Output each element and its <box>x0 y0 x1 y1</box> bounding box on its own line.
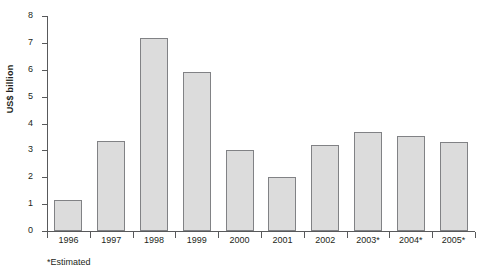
x-axis-label: 1996 <box>47 234 90 246</box>
footnote: *Estimated <box>47 256 91 268</box>
y-tick-label: 2 <box>28 171 33 182</box>
bar-slot <box>347 16 390 231</box>
y-tick-label: 1 <box>28 198 33 209</box>
plot-area: 876543210 <box>47 16 475 232</box>
y-tick-label: 5 <box>28 91 33 102</box>
bar-slot <box>218 16 261 231</box>
bar <box>226 150 254 231</box>
x-axis-label: 1997 <box>90 234 133 246</box>
bar-slot <box>304 16 347 231</box>
bar-slot <box>432 16 475 231</box>
bar <box>140 38 168 232</box>
bar <box>268 177 296 231</box>
y-axis-title: US$ billion <box>5 49 15 129</box>
bar-slot <box>261 16 304 231</box>
x-axis-label: 2002 <box>304 234 347 246</box>
x-axis-label: 2004* <box>389 234 432 246</box>
bar <box>397 136 425 231</box>
bar <box>97 141 125 231</box>
bar <box>54 200 82 231</box>
bar-slot <box>90 16 133 231</box>
bar <box>311 145 339 231</box>
bar-chart: US$ billion 876543210 199619971998199920… <box>0 0 487 279</box>
y-tick-label: 0 <box>28 225 33 236</box>
bar-series <box>47 16 475 231</box>
y-tick-label: 4 <box>28 118 33 129</box>
bar-slot <box>175 16 218 231</box>
bar <box>354 132 382 231</box>
bar-slot <box>389 16 432 231</box>
x-axis-label: 2003* <box>347 234 390 246</box>
x-axis-label: 1999 <box>175 234 218 246</box>
bar <box>183 72 211 231</box>
x-axis-label: 2005* <box>432 234 475 246</box>
x-tick <box>475 232 476 238</box>
y-tick-label: 8 <box>28 10 33 21</box>
y-tick-label: 7 <box>28 37 33 48</box>
x-axis-label: 2001 <box>261 234 304 246</box>
bar <box>440 142 468 231</box>
x-axis-label: 1998 <box>133 234 176 246</box>
bar-slot <box>47 16 90 231</box>
y-tick-label: 6 <box>28 64 33 75</box>
x-axis-labels: 19961997199819992000200120022003*2004*20… <box>47 234 475 250</box>
y-tick-label: 3 <box>28 144 33 155</box>
bar-slot <box>133 16 176 231</box>
x-axis-label: 2000 <box>218 234 261 246</box>
